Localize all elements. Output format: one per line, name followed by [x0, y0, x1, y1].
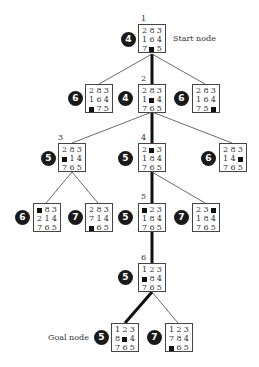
blank-tile [36, 205, 43, 214]
puzzle-state-node: 12384765 [138, 263, 166, 292]
tile: 7 [88, 214, 95, 223]
tile: 4 [183, 334, 190, 343]
puzzle-state-node: 28371465 [85, 203, 113, 232]
tile: 3 [210, 86, 217, 95]
tile: 5 [129, 343, 136, 352]
tile: 5 [210, 223, 217, 232]
tile: 2 [222, 145, 229, 154]
tile: 1 [141, 265, 148, 274]
tile: 7 [141, 104, 148, 113]
start-node-label: Start node [173, 34, 216, 43]
puzzle-state-node: 28314765 [219, 143, 247, 172]
tile: 8 [148, 274, 155, 283]
tile: 8 [114, 334, 121, 343]
puzzle-state-node: 12384765 [111, 323, 139, 352]
blank-tile [148, 44, 155, 53]
blank-tile [88, 223, 95, 232]
tile: 6 [229, 163, 236, 172]
blank-tile [141, 205, 148, 214]
tile: 2 [88, 86, 95, 95]
tile: 3 [76, 145, 83, 154]
puzzle-state-node: 28314765 [58, 143, 86, 172]
blank-tile [141, 274, 148, 283]
tile: 8 [95, 205, 102, 214]
tile: 4 [229, 154, 236, 163]
tile: 8 [148, 86, 155, 95]
expansion-order-label: 5 [141, 192, 146, 201]
tile: 1 [141, 35, 148, 44]
tile: 4 [129, 334, 136, 343]
tile: 1 [141, 154, 148, 163]
tile: 1 [195, 95, 202, 104]
heuristic-score-badge: 7 [147, 330, 162, 345]
edge [152, 54, 205, 84]
puzzle-state-node: 28314765 [138, 84, 166, 113]
expansion-order-label: 6 [141, 253, 146, 262]
tile: 4 [210, 214, 217, 223]
tile: 3 [202, 205, 209, 214]
tile: 5 [156, 223, 163, 232]
tile: 2 [148, 265, 155, 274]
tile: 8 [229, 145, 236, 154]
blank-tile [210, 205, 217, 214]
tile: 5 [103, 223, 110, 232]
tile: 6 [68, 163, 75, 172]
blank-tile [88, 104, 95, 113]
tile: 2 [141, 26, 148, 35]
tile: 2 [61, 145, 68, 154]
tile: 1 [114, 325, 121, 334]
tile: 2 [148, 205, 155, 214]
tile: 5 [156, 104, 163, 113]
heuristic-score-badge: 4 [121, 32, 136, 47]
tile: 2 [121, 325, 128, 334]
tile: 2 [175, 325, 182, 334]
tile: 8 [175, 334, 182, 343]
tile: 7 [222, 163, 229, 172]
tile: 6 [148, 35, 155, 44]
tile: 4 [51, 214, 58, 223]
tile: 7 [168, 334, 175, 343]
blank-tile [148, 145, 155, 154]
tile: 3 [237, 145, 244, 154]
puzzle-state-node: 28316475 [138, 24, 166, 53]
edge [72, 112, 152, 143]
tile: 7 [36, 223, 43, 232]
heuristic-score-badge: 5 [118, 151, 133, 166]
edge [152, 112, 232, 143]
tile: 4 [210, 95, 217, 104]
tile: 6 [148, 163, 155, 172]
puzzle-state-node: 23184765 [138, 143, 166, 172]
tile: 5 [156, 163, 163, 172]
tile: 5 [156, 44, 163, 53]
blank-tile [148, 95, 155, 104]
tile: 8 [95, 86, 102, 95]
tile: 8 [148, 154, 155, 163]
puzzle-state-node: 28316475 [192, 84, 220, 113]
tile: 2 [36, 214, 43, 223]
tile: 8 [202, 86, 209, 95]
heuristic-score-badge: 6 [15, 210, 30, 225]
tile: 3 [103, 86, 110, 95]
tile: 4 [76, 154, 83, 163]
tile: 1 [222, 154, 229, 163]
heuristic-score-badge: 7 [174, 210, 189, 225]
heuristic-score-badge: 4 [118, 91, 133, 106]
tile: 2 [141, 86, 148, 95]
heuristic-score-badge: 6 [201, 151, 216, 166]
heuristic-score-badge: 5 [41, 151, 56, 166]
expansion-order-label: 2 [141, 74, 146, 83]
tile: 2 [141, 145, 148, 154]
tile: 3 [156, 265, 163, 274]
puzzle-state-node: 23184765 [138, 203, 166, 232]
tile: 4 [103, 214, 110, 223]
edge [46, 172, 72, 203]
tile: 6 [148, 104, 155, 113]
expansion-order-label: 1 [141, 14, 146, 23]
tile: 6 [175, 343, 182, 352]
tile: 8 [148, 214, 155, 223]
tile: 1 [68, 154, 75, 163]
tile: 6 [148, 223, 155, 232]
tile: 7 [61, 163, 68, 172]
blank-tile [237, 154, 244, 163]
tile: 3 [156, 26, 163, 35]
